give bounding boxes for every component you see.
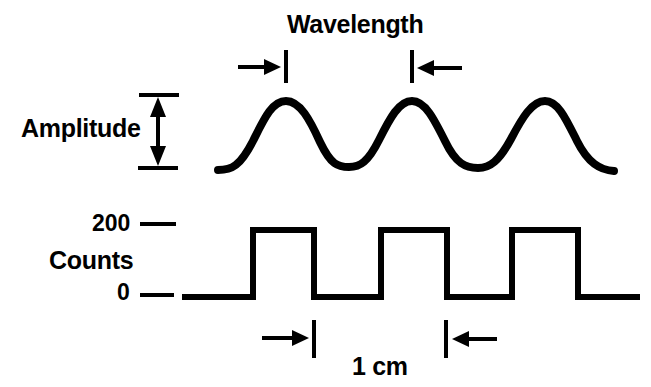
wavelength-right-arrowhead <box>417 60 434 76</box>
wavelength-left-arrowhead <box>264 59 281 75</box>
square-wave-path <box>182 230 640 297</box>
counts-axis-label: Counts <box>49 248 133 273</box>
scale-right-arrowhead <box>452 331 469 347</box>
square-wave <box>182 230 640 297</box>
amplitude-label: Amplitude <box>21 116 141 141</box>
sine-wave <box>218 101 614 171</box>
counts-tick-label-0: 0 <box>117 281 130 304</box>
wavelength-label: Wavelength <box>287 12 423 37</box>
counts-axis-ticks <box>140 224 176 295</box>
figure-canvas <box>0 0 651 387</box>
sine-wave-path <box>218 101 614 171</box>
amplitude-measure <box>138 95 179 168</box>
wavelength-measure <box>238 50 462 83</box>
counts-tick-label-200: 200 <box>92 212 130 235</box>
amplitude-up-arrowhead <box>150 97 166 117</box>
scale-left-arrowhead <box>292 330 309 346</box>
scale-label: 1 cm <box>352 354 408 379</box>
amplitude-down-arrowhead <box>150 146 166 166</box>
wave-counts-figure: Wavelength Amplitude 200 Counts 0 1 cm <box>0 0 651 387</box>
